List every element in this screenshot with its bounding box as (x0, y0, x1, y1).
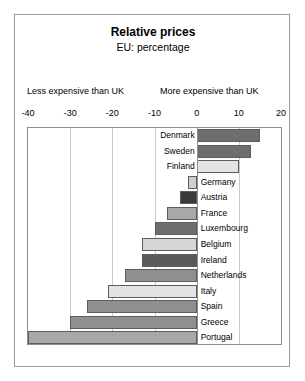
chart-subtitle: EU: percentage (15, 41, 291, 53)
bar-label-finland: Finland (133, 160, 199, 173)
chart-frame: Relative prices EU: percentage Less expe… (14, 14, 290, 367)
annotation-more-expensive: More expensive than UK (160, 86, 259, 96)
bar-ireland (142, 254, 197, 267)
bar-netherlands (125, 269, 197, 282)
bar-row: Ireland (28, 253, 281, 269)
bar-label-belgium: Belgium (197, 238, 232, 251)
bar-row: France (28, 206, 281, 222)
bar-label-portugal: Portugal (197, 331, 233, 344)
bar-row: Sweden (28, 144, 281, 160)
bar-finland (197, 160, 239, 173)
annotation-less-expensive: Less expensive than UK (27, 86, 124, 96)
bar-label-spain: Spain (197, 300, 223, 313)
bar-row: Netherlands (28, 268, 281, 284)
bar-row: Italy (28, 284, 281, 300)
x-tick-20: 20 (276, 108, 286, 118)
bar-row: Spain (28, 299, 281, 315)
bar-label-austria: Austria (197, 191, 227, 204)
x-tick-neg30: -30 (64, 108, 77, 118)
bar-row: Finland (28, 159, 281, 175)
x-tick-0: 0 (194, 108, 199, 118)
x-axis-ticks: -40-30-20-1001020 (15, 108, 291, 120)
x-tick-10: 10 (234, 108, 244, 118)
bar-row: Germany (28, 175, 281, 191)
bar-label-netherlands: Netherlands (197, 269, 247, 282)
bar-germany (188, 176, 196, 189)
bar-label-germany: Germany (197, 176, 236, 189)
bar-spain (87, 300, 197, 313)
chart-title: Relative prices (15, 25, 291, 39)
bar-label-denmark: Denmark (133, 129, 199, 142)
bar-greece (70, 316, 197, 329)
x-tick-neg20: -20 (106, 108, 119, 118)
bar-denmark (197, 129, 260, 142)
bar-portugal (28, 331, 197, 344)
x-tick-neg10: -10 (148, 108, 161, 118)
bar-belgium (142, 238, 197, 251)
bar-label-france: France (197, 207, 227, 220)
bar-label-luxembourg: Luxembourg (197, 222, 248, 235)
plot-area: DenmarkSwedenFinlandGermanyAustriaFrance… (27, 127, 282, 345)
bar-italy (108, 285, 197, 298)
bar-france (167, 207, 197, 220)
bar-row: Luxembourg (28, 221, 281, 237)
bar-row: Denmark (28, 128, 281, 144)
bar-row: Belgium (28, 237, 281, 253)
bar-label-sweden: Sweden (133, 145, 199, 158)
x-tick-neg40: -40 (21, 108, 34, 118)
zero-line (197, 128, 198, 344)
bar-row: Greece (28, 315, 281, 331)
bar-label-italy: Italy (197, 285, 217, 298)
bar-austria (180, 191, 197, 204)
bar-label-ireland: Ireland (197, 254, 227, 267)
bar-row: Portugal (28, 330, 281, 346)
bar-sweden (197, 145, 252, 158)
bar-luxembourg (155, 222, 197, 235)
bar-row: Austria (28, 190, 281, 206)
bar-label-greece: Greece (197, 316, 229, 329)
